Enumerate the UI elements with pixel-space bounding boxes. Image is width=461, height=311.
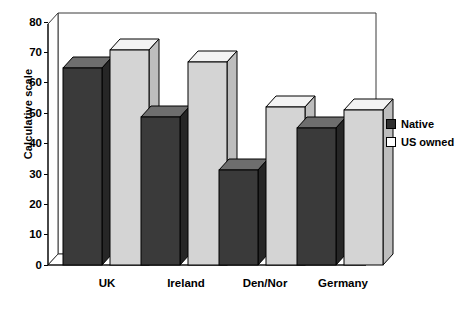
x-label-uk: UK — [99, 277, 116, 289]
bar-chart: Calculative scale 80 70 60 50 40 30 20 1… — [0, 0, 461, 311]
bar-germany-native — [297, 117, 346, 265]
legend-label-us-owned: US owned — [401, 136, 454, 148]
legend-item-native: Native — [386, 118, 454, 130]
legend-swatch-empty-square-icon — [386, 137, 396, 147]
x-label-ireland: Ireland — [167, 277, 205, 289]
bar-ireland-native — [141, 106, 190, 265]
legend-item-us-owned: US owned — [386, 136, 454, 148]
bars-group — [0, 0, 461, 311]
bar-dennor-native — [219, 159, 268, 265]
legend-swatch-filled-square-icon — [386, 119, 396, 129]
x-label-germany: Germany — [318, 277, 368, 289]
cut-off-caption — [0, 304, 461, 311]
bar-uk-native — [63, 57, 112, 265]
legend-label-native: Native — [401, 118, 434, 130]
x-label-dennor: Den/Nor — [243, 277, 288, 289]
chart-legend: Native US owned — [386, 118, 454, 154]
